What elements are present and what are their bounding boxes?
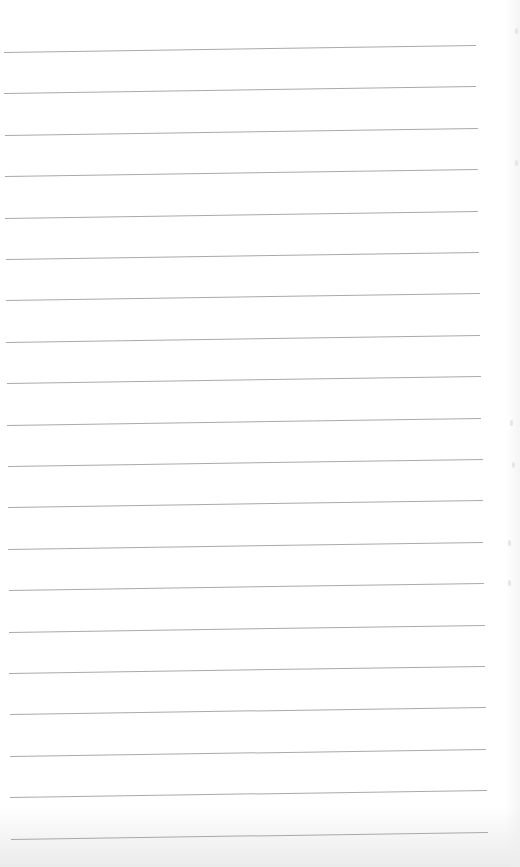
ruled-line xyxy=(4,45,476,53)
ruled-line xyxy=(7,376,481,384)
ruled-line xyxy=(9,666,485,674)
ruled-line xyxy=(10,790,486,798)
ruled-line xyxy=(5,211,478,219)
margin-speck xyxy=(515,28,518,34)
margin-speck xyxy=(510,420,513,426)
page-edge-shadow xyxy=(506,0,520,867)
ruled-line xyxy=(7,459,481,467)
ruled-line xyxy=(4,86,476,94)
ruled-line xyxy=(8,542,483,550)
ruled-line xyxy=(7,418,481,426)
ruled-line xyxy=(11,832,488,840)
ruled-line xyxy=(6,335,480,343)
lined-paper-sheet xyxy=(0,0,520,867)
ruled-line xyxy=(6,252,479,260)
ruled-line xyxy=(9,583,484,591)
margin-speck xyxy=(508,540,511,546)
margin-speck xyxy=(512,462,515,468)
ruled-line xyxy=(9,625,484,633)
ruled-line xyxy=(10,707,486,715)
ruled-line xyxy=(5,169,478,177)
margin-speck xyxy=(508,580,511,586)
ruled-line xyxy=(5,128,477,136)
ruled-line xyxy=(8,500,483,508)
margin-speck xyxy=(515,160,518,166)
ruled-line xyxy=(6,293,479,301)
ruled-line xyxy=(10,749,486,757)
